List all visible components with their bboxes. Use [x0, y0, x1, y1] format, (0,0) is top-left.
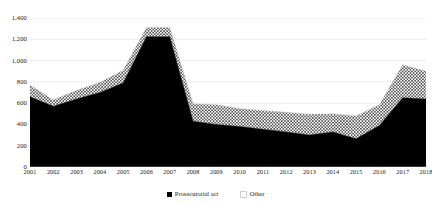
y-axis-tick-label: 800 [17, 79, 27, 86]
legend-label-prosecutorial-act: Prosecutorial act [175, 191, 219, 198]
legend-swatch-solid-icon [167, 192, 172, 197]
legend-item-other: Other [240, 191, 264, 198]
y-axis: 02004006008001,0001,2001,400 [0, 18, 27, 167]
x-axis-tick-label: 2012 [280, 169, 293, 175]
plot-area [30, 18, 426, 167]
x-axis-tick-label: 2008 [187, 169, 200, 175]
y-axis-tick-label: 1,200 [12, 36, 27, 43]
series-area-prosecutorial-act [30, 37, 426, 167]
x-axis-tick-label: 2013 [303, 169, 316, 175]
y-axis-tick-label: 1,400 [12, 15, 27, 22]
x-axis-tick-label: 2003 [70, 169, 83, 175]
chart-legend: Prosecutorial act Other [0, 187, 432, 201]
x-axis-tick-label: 2016 [373, 169, 386, 175]
stacked-area-chart: 02004006008001,0001,2001,400 20012002200… [0, 0, 432, 206]
x-axis-tick-label: 2014 [326, 169, 339, 175]
x-axis-tick-label: 2001 [24, 169, 37, 175]
x-axis-tick-label: 2017 [396, 169, 409, 175]
y-axis-tick-label: 200 [17, 142, 27, 149]
legend-item-prosecutorial-act: Prosecutorial act [167, 191, 218, 198]
x-axis-tick-label: 2011 [257, 169, 270, 175]
y-axis-tick-label: 400 [17, 121, 27, 128]
x-axis-tick-label: 2015 [350, 169, 363, 175]
x-axis: 2001200220032004200520062007200820092010… [30, 169, 426, 181]
legend-label-other: Other [250, 191, 265, 198]
legend-swatch-dotted-icon [240, 191, 247, 198]
plot-svg [30, 18, 426, 167]
x-axis-tick-label: 2018 [420, 169, 432, 175]
x-axis-tick-label: 2005 [117, 169, 130, 175]
x-axis-tick-label: 2009 [210, 169, 223, 175]
x-axis-tick-label: 2002 [47, 169, 60, 175]
x-axis-tick-label: 2010 [233, 169, 246, 175]
x-axis-tick-label: 2004 [93, 169, 106, 175]
x-axis-tick-label: 2007 [163, 169, 176, 175]
x-axis-tick-label: 2006 [140, 169, 153, 175]
y-axis-tick-label: 1,000 [12, 57, 27, 64]
y-axis-tick-label: 600 [17, 100, 27, 107]
